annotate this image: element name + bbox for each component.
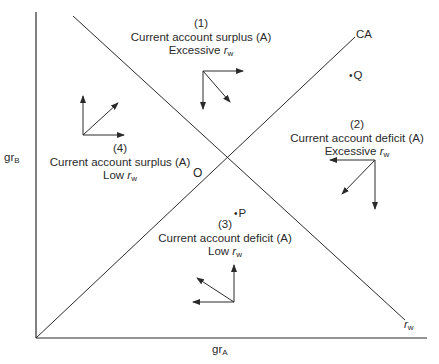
region-1-arrows — [203, 71, 243, 109]
region-2-number: (2) — [274, 118, 439, 132]
region-3-label: (3) Current account deficit (A) Low rw — [142, 218, 308, 262]
point-q: •Q — [349, 69, 362, 82]
region-3-number: (3) — [142, 218, 308, 232]
region-1-line2: Excessive rw — [118, 44, 284, 61]
region-2-line1: Current account deficit (A) — [274, 132, 439, 146]
region-1-line1: Current account surplus (A) — [118, 31, 284, 45]
region-3-line2: Low rw — [142, 245, 308, 262]
region-4-label: (4) Current account surplus (A) Low rw — [37, 142, 203, 186]
region-1-number: (1) — [118, 17, 284, 31]
region-1-label: (1) Current account surplus (A) Excessiv… — [118, 17, 284, 61]
point-p: •P — [234, 207, 246, 220]
region-4-line1: Current account surplus (A) — [37, 156, 203, 170]
region-4-line2: Low rw — [37, 169, 203, 186]
region-3-arrows — [193, 265, 234, 302]
region-4-arrows — [83, 96, 124, 135]
region-3-line1: Current account deficit (A) — [142, 232, 308, 246]
region-2-label: (2) Current account deficit (A) Excessiv… — [274, 118, 439, 162]
region-4-number: (4) — [37, 142, 203, 156]
y-axis-label: grB — [4, 151, 20, 167]
region-2-arrows — [330, 160, 375, 209]
point-p-dot-icon: • — [234, 208, 238, 219]
rw-line-label: rw — [404, 318, 414, 334]
x-axis-label: grA — [212, 343, 228, 359]
point-q-dot-icon: • — [349, 70, 353, 81]
ca-line — [36, 37, 355, 338]
ca-line-label: CA — [356, 28, 372, 41]
region-2-line2: Excessive rw — [274, 145, 439, 162]
intersection-label-o: O — [193, 167, 202, 180]
